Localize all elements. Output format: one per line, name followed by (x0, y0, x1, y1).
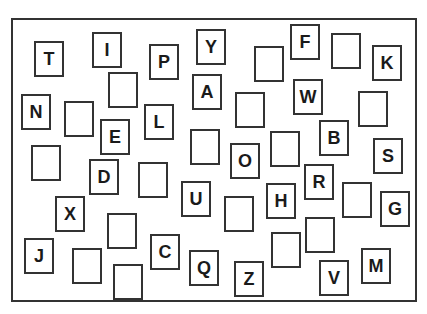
letter-card-t: T (34, 41, 64, 77)
letter-card-g: G (380, 191, 410, 227)
empty-card (190, 129, 220, 165)
letter-card-j: J (24, 238, 54, 274)
empty-card (31, 145, 61, 181)
empty-card (358, 91, 388, 127)
empty-card (235, 92, 265, 128)
letter-card-m: M (361, 248, 391, 284)
letter-card-n: N (21, 94, 51, 130)
empty-card (331, 33, 361, 69)
empty-card (138, 162, 168, 198)
letter-card-l: L (144, 104, 174, 140)
empty-card (271, 232, 301, 268)
letter-card-v: V (319, 260, 349, 296)
letter-card-u: U (181, 181, 211, 217)
letter-card-o: O (230, 143, 260, 179)
letter-card-a: A (192, 74, 222, 110)
empty-card (270, 131, 300, 167)
letter-card-b: B (319, 120, 349, 156)
letter-card-h: H (266, 183, 296, 219)
letter-card-r: R (304, 164, 334, 200)
empty-card (305, 217, 335, 253)
letter-card-y: Y (196, 29, 226, 65)
empty-card (224, 196, 254, 232)
empty-card (342, 182, 372, 218)
letter-card-z: Z (234, 261, 264, 297)
letter-card-c: C (150, 234, 180, 270)
letter-card-i: I (92, 32, 122, 68)
letter-card-p: P (149, 44, 179, 80)
letter-card-s: S (373, 138, 403, 174)
empty-card (107, 213, 137, 249)
letter-card-f: F (290, 24, 320, 60)
letter-card-q: Q (189, 250, 219, 286)
empty-card (108, 72, 138, 108)
letter-card-d: D (89, 159, 119, 195)
empty-card (72, 248, 102, 284)
letter-card-k: K (372, 45, 402, 81)
empty-card (254, 46, 284, 82)
empty-card (113, 264, 143, 300)
empty-card (64, 101, 94, 137)
letter-card-e: E (100, 119, 130, 155)
letter-card-x: X (55, 196, 85, 232)
letter-card-w: W (293, 79, 323, 115)
